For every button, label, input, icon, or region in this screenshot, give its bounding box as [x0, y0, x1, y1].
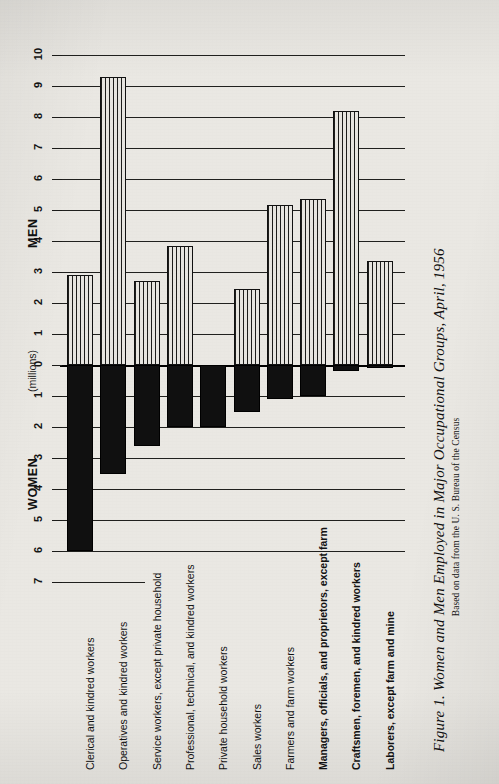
category-label-4: Private household workers: [217, 646, 229, 770]
units-label: (millions): [26, 350, 38, 392]
bar-women-5: [234, 365, 260, 412]
axis-tick-down-7: [52, 582, 62, 583]
category-label-2: Service workers, except private househol…: [151, 573, 163, 770]
series-label-women: WOMEN: [26, 458, 40, 510]
category-label-5: Sales workers: [251, 704, 263, 770]
axis-tick-label-up-8: 8: [32, 105, 44, 127]
axis-tick-label-up-10: 10: [32, 43, 44, 65]
axis-tick-down-4: [52, 489, 62, 490]
axis-tick-label-up-1: 1: [32, 322, 44, 344]
bar-men-8: [333, 111, 359, 365]
axis-tick-label-up-5: 5: [32, 198, 44, 220]
gridline-down-7: [60, 582, 145, 583]
bar-men-1: [100, 77, 126, 365]
axis-tick-label-up-6: 6: [32, 167, 44, 189]
chart-plot-area: 0123456789101234567MEN(millions)WOMENCle…: [0, 0, 499, 784]
bar-women-8: [333, 365, 359, 371]
bar-women-2: [134, 365, 160, 446]
axis-tick-label-down-5: 5: [32, 508, 44, 530]
axis-tick-label-up-9: 9: [32, 74, 44, 96]
bar-women-9: [367, 365, 393, 368]
bar-women-7: [300, 365, 326, 396]
axis-tick-up-6: [52, 179, 62, 180]
series-label-men: MEN: [26, 218, 40, 248]
bar-men-9: [367, 261, 393, 365]
category-label-6: Farmers and farm workers: [284, 647, 296, 770]
figure-1: 0123456789101234567MEN(millions)WOMENCle…: [0, 0, 499, 784]
bar-men-7: [300, 199, 326, 365]
category-label-0: Clerical and kindred workers: [84, 638, 96, 770]
axis-tick-up-7: [52, 148, 62, 149]
axis-tick-down-2: [52, 427, 62, 428]
axis-tick-up-4: [52, 241, 62, 242]
gridline-up-10: [60, 55, 405, 56]
category-label-9: Laborers, except farm and mine: [384, 611, 396, 770]
bar-men-6: [267, 205, 293, 365]
bar-men-3: [167, 246, 193, 365]
axis-tick-up-8: [52, 117, 62, 118]
category-label-8: Craftsmen, foremen, and kindred workers: [350, 562, 362, 770]
bar-women-0: [67, 365, 93, 551]
axis-tick-up-10: [52, 55, 62, 56]
axis-tick-label-down-6: 6: [32, 539, 44, 561]
figure-caption: Figure 1. Women and Men Employed in Majo…: [431, 282, 461, 752]
figure-caption-source: Based on data from the U. S. Bureau of t…: [451, 282, 461, 752]
axis-tick-label-up-7: 7: [32, 136, 44, 158]
axis-tick-up-1: [52, 334, 62, 335]
bar-women-1: [100, 365, 126, 474]
bar-men-2: [134, 281, 160, 365]
gridline-down-4: [60, 489, 405, 490]
axis-tick-up-5: [52, 210, 62, 211]
bar-men-5: [234, 289, 260, 365]
category-label-1: Operatives and kindred workers: [117, 622, 129, 770]
gridline-down-5: [60, 520, 405, 521]
bar-women-4: [200, 365, 226, 427]
category-label-3: Professional, technical, and kindred wor…: [184, 565, 196, 770]
axis-tick-down-3: [52, 458, 62, 459]
axis-tick-up-3: [52, 272, 62, 273]
axis-tick-up-0: [52, 365, 62, 366]
axis-tick-label-up-2: 2: [32, 291, 44, 313]
axis-tick-label-down-7: 7: [32, 570, 44, 592]
axis-tick-down-6: [52, 551, 62, 552]
bar-men-0: [67, 275, 93, 365]
bar-women-6: [267, 365, 293, 399]
axis-tick-down-1: [52, 396, 62, 397]
figure-caption-title: Figure 1. Women and Men Employed in Majo…: [431, 282, 448, 752]
axis-tick-label-down-2: 2: [32, 415, 44, 437]
axis-tick-label-up-3: 3: [32, 260, 44, 282]
bar-women-3: [167, 365, 193, 427]
axis-tick-down-5: [52, 520, 62, 521]
axis-tick-up-2: [52, 303, 62, 304]
category-label-7: Managers, officials, and proprietors, ex…: [317, 527, 329, 770]
axis-tick-up-9: [52, 86, 62, 87]
gridline-down-6: [60, 551, 405, 552]
